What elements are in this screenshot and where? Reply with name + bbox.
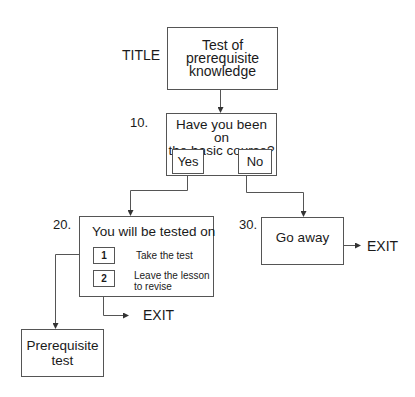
option-2-line-1: Leave the lesson (134, 270, 210, 281)
question-node-10: Have you been on the basic course? Yes N… (166, 113, 277, 176)
title-line-3: knowledge (189, 65, 256, 78)
node-30: Go away (261, 217, 344, 265)
title-side-label: TITLE (122, 47, 160, 63)
option-2-text: Leave the lesson to revise (134, 270, 210, 292)
node-20-number: 20. (53, 217, 71, 233)
exit-from-20: EXIT (143, 307, 174, 323)
no-option[interactable]: No (238, 149, 272, 174)
prerequisite-test-node: Prerequisite test (21, 329, 104, 377)
node-10-number: 10. (130, 115, 148, 131)
question-line-1: Have you been on (167, 118, 276, 144)
title-node: Test of prerequisite knowledge (167, 27, 278, 90)
exit-from-30: EXIT (367, 238, 398, 254)
option-2-key[interactable]: 2 (93, 270, 115, 287)
node-30-number: 30. (239, 217, 257, 233)
prereq-line-2: test (52, 353, 74, 368)
node-20-heading: You will be tested on (92, 224, 215, 239)
option-1-text: Take the test (136, 250, 193, 261)
option-2-line-2: to revise (134, 281, 210, 292)
node-20: You will be tested on 1 Take the test 2 … (79, 216, 214, 297)
prereq-line-1: Prerequisite (26, 338, 98, 353)
option-1-key[interactable]: 1 (93, 247, 115, 264)
yes-option[interactable]: Yes (172, 149, 204, 174)
